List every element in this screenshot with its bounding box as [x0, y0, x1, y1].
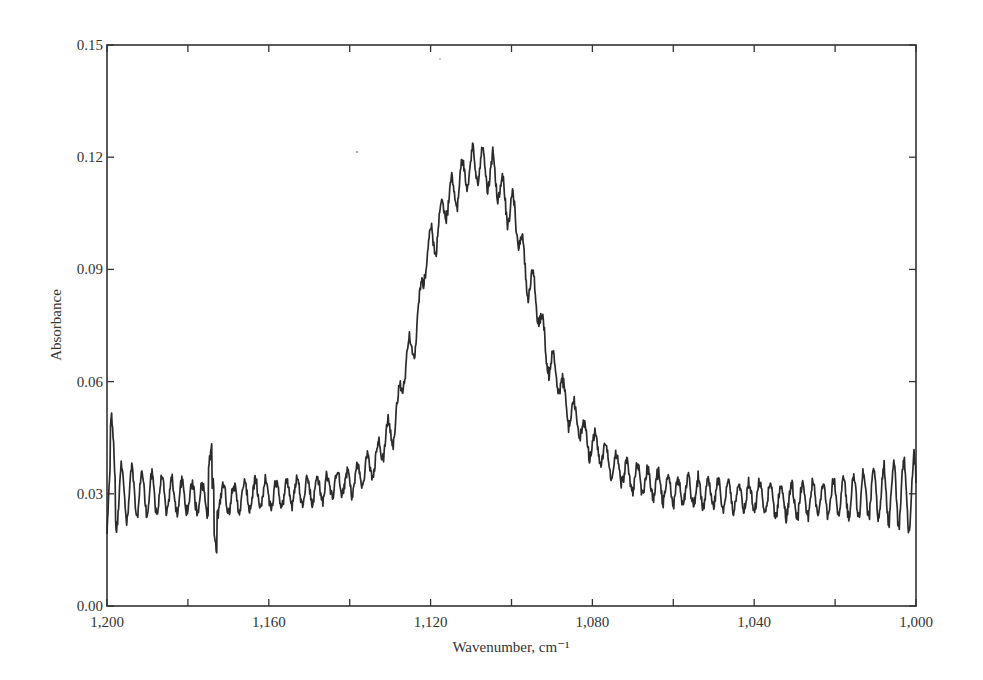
x-tick-label: 1,200 [90, 614, 124, 630]
y-tick-label: 0.00 [77, 598, 103, 614]
spectrum-line-layer [107, 143, 916, 553]
scan-speck [439, 58, 441, 60]
y-tick-label: 0.06 [77, 374, 104, 390]
scan-speck [356, 151, 358, 153]
y-tick-label: 0.03 [77, 486, 103, 502]
plot-frame [107, 45, 916, 606]
x-axis-title: Wavenumber, cm⁻¹ [452, 639, 569, 655]
x-tick-label: 1,000 [899, 614, 933, 630]
y-tick-label: 0.15 [77, 37, 103, 53]
y-axis-title: Absorbance [48, 289, 64, 361]
y-axis-ticks: 0.000.030.060.090.120.15 [77, 37, 916, 614]
x-tick-label: 1,040 [737, 614, 771, 630]
x-tick-label: 1,080 [576, 614, 610, 630]
y-tick-label: 0.12 [77, 149, 103, 165]
x-tick-label: 1,120 [414, 614, 448, 630]
y-tick-label: 0.09 [77, 261, 103, 277]
spectrum-chart: 0.000.030.060.090.120.15 1,2001,1601,120… [0, 0, 983, 680]
spectrum-line [107, 143, 916, 553]
x-tick-label: 1,160 [252, 614, 286, 630]
